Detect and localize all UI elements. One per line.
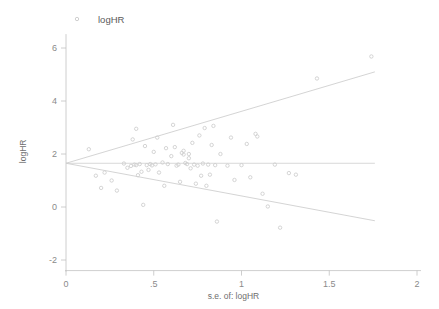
data-point-marker: [226, 164, 229, 167]
data-point-marker: [135, 127, 138, 130]
data-point-marker: [278, 226, 281, 229]
y-axis-tick-label: -2: [49, 255, 57, 265]
data-point-marker: [170, 154, 173, 157]
data-point-marker: [219, 152, 222, 155]
data-point-marker: [143, 144, 146, 147]
y-axis-tick-label: 6: [52, 43, 57, 53]
data-point-marker: [147, 168, 150, 171]
data-point-marker: [245, 142, 248, 145]
legend-label: logHR: [98, 14, 125, 25]
data-point-marker: [131, 138, 134, 141]
data-point-marker: [187, 152, 190, 155]
data-point-marker: [173, 145, 176, 148]
data-point-marker: [249, 176, 252, 179]
data-point-marker: [205, 184, 208, 187]
funnel-plot-figure: -202460.511.52s.e. of: logHRlogHRlogHR: [0, 0, 439, 309]
pseudo-95-ci-lower: [66, 163, 375, 221]
data-point-marker: [94, 174, 97, 177]
data-point-marker: [145, 163, 148, 166]
data-point-marker: [103, 171, 106, 174]
y-axis-tick-label: 0: [52, 202, 57, 212]
x-axis-tick-label: 1.5: [323, 279, 336, 289]
data-point-marker: [163, 184, 166, 187]
data-point-marker: [189, 167, 192, 170]
data-point-marker: [164, 146, 167, 149]
data-point-marker: [203, 126, 206, 129]
x-axis-title: s.e. of: logHR: [208, 291, 260, 301]
x-axis-tick-label: .5: [150, 279, 158, 289]
data-point-marker: [194, 182, 197, 185]
data-point-marker: [208, 173, 211, 176]
data-point-marker: [110, 179, 113, 182]
data-point-marker: [140, 170, 143, 173]
x-axis-tick-label: 2: [414, 279, 419, 289]
data-point-marker: [171, 123, 174, 126]
chart-canvas: -202460.511.52s.e. of: logHRlogHRlogHR: [0, 0, 439, 309]
data-point-marker: [157, 171, 160, 174]
data-point-marker: [261, 192, 264, 195]
data-point-marker: [198, 134, 201, 137]
x-axis-tick-label: 0: [63, 279, 68, 289]
data-point-marker: [126, 166, 129, 169]
data-point-marker: [370, 55, 373, 58]
data-point-marker: [129, 164, 132, 167]
y-axis-tick-label: 4: [52, 96, 57, 106]
data-point-marker: [178, 180, 181, 183]
pseudo-95-ci-upper: [66, 72, 375, 163]
y-axis-title: logHR: [18, 140, 28, 164]
data-point-marker: [213, 163, 216, 166]
data-point-marker: [199, 174, 202, 177]
data-point-marker: [212, 124, 215, 127]
legend-marker-icon: [75, 17, 78, 20]
data-point-marker: [233, 178, 236, 181]
data-point-marker: [115, 189, 118, 192]
data-point-marker: [152, 150, 155, 153]
data-point-marker: [287, 171, 290, 174]
data-point-marker: [294, 173, 297, 176]
data-point-marker: [215, 220, 218, 223]
x-axis-tick-label: 1: [239, 279, 244, 289]
y-axis-tick-label: 2: [52, 149, 57, 159]
data-point-marker: [210, 143, 213, 146]
data-point-marker: [240, 163, 243, 166]
data-point-marker: [266, 205, 269, 208]
data-point-marker: [191, 141, 194, 144]
data-point-marker: [187, 157, 190, 160]
data-point-marker: [229, 136, 232, 139]
data-point-marker: [99, 186, 102, 189]
data-point-marker: [256, 135, 259, 138]
data-point-marker: [315, 77, 318, 80]
data-point-marker: [87, 148, 90, 151]
data-point-marker: [142, 203, 145, 206]
data-point-marker: [196, 164, 199, 167]
